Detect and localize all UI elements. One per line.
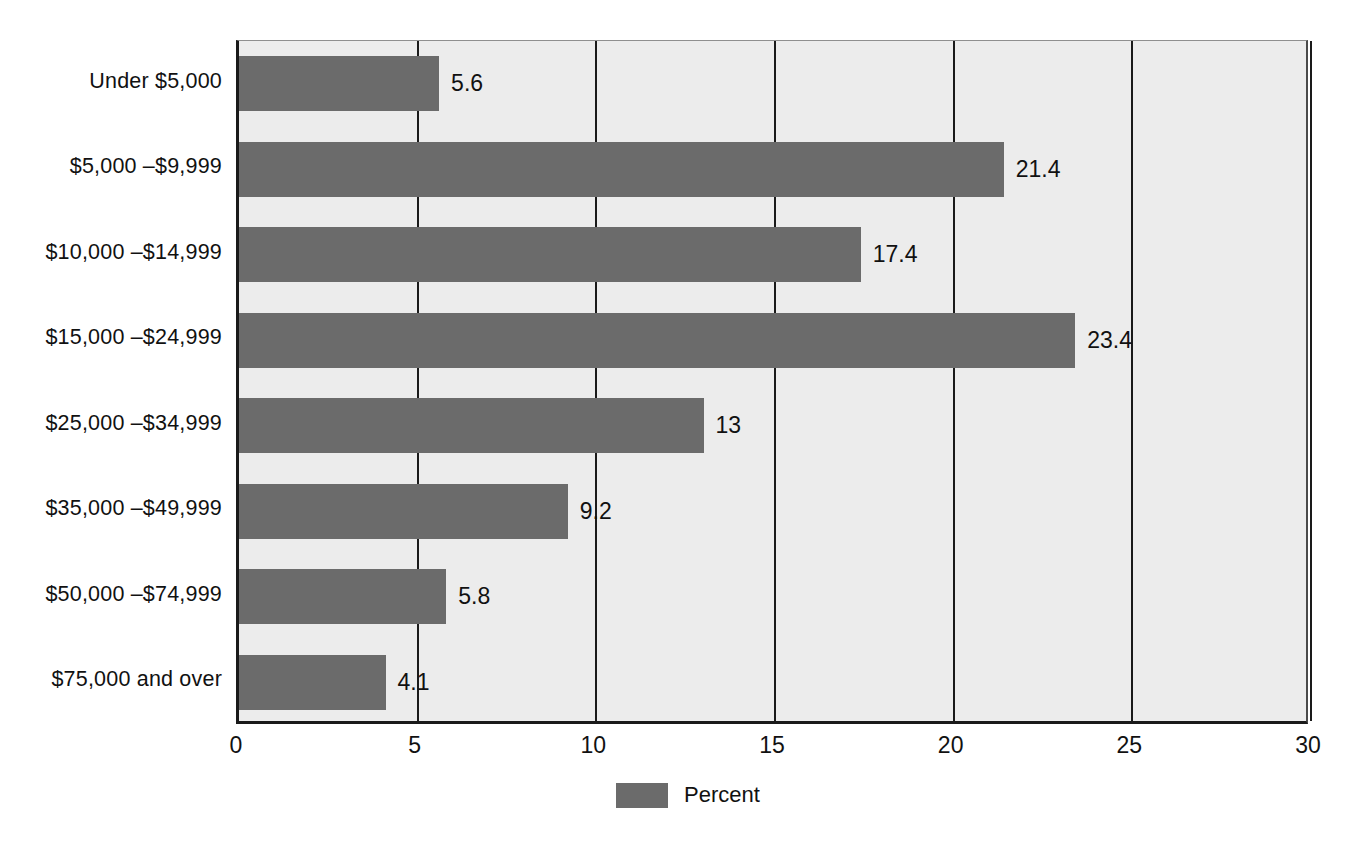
category-label: $50,000 –$74,999 [0, 582, 222, 607]
bar-value-label: 23.4 [1087, 313, 1132, 368]
bar-value-label: 5.6 [451, 56, 483, 111]
legend-label-percent: Percent [684, 782, 760, 808]
bar-value-label: 5.8 [458, 569, 490, 624]
x-tick-label: 25 [1117, 732, 1143, 759]
category-label: $5,000 –$9,999 [0, 154, 222, 179]
plot-inner: 5.621.417.423.4139.25.84.1 [239, 41, 1306, 721]
legend-entry: Percent [616, 782, 760, 808]
legend-swatch-percent [616, 783, 668, 808]
x-tick-label: 30 [1295, 732, 1321, 759]
x-axis: 051015202530 [236, 724, 1308, 770]
plot-area: 5.621.417.423.4139.25.84.1 [236, 40, 1308, 724]
bar [239, 227, 861, 282]
category-label: $35,000 –$49,999 [0, 496, 222, 521]
chart-legend: Percent [0, 782, 1352, 808]
bar [239, 484, 568, 539]
bar [239, 569, 446, 624]
gridline [1131, 41, 1133, 721]
category-label: $75,000 and over [0, 667, 222, 692]
bar [239, 56, 439, 111]
bar [239, 398, 704, 453]
bar [239, 142, 1004, 197]
bar-value-label: 9.2 [580, 484, 612, 539]
bar-value-label: 4.1 [398, 655, 430, 710]
x-tick-label: 5 [408, 732, 421, 759]
bar [239, 655, 386, 710]
x-tick-label: 15 [759, 732, 785, 759]
bar-value-label: 13 [716, 398, 742, 453]
x-tick-label: 0 [230, 732, 243, 759]
category-label: $15,000 –$24,999 [0, 325, 222, 350]
bar [239, 313, 1075, 368]
category-label: $25,000 –$34,999 [0, 411, 222, 436]
bar-value-label: 17.4 [873, 227, 918, 282]
gridline [1310, 41, 1312, 721]
x-tick-label: 20 [938, 732, 964, 759]
category-axis: Under $5,000$5,000 –$9,999$10,000 –$14,9… [0, 40, 222, 724]
x-tick-label: 10 [581, 732, 607, 759]
bar-value-label: 21.4 [1016, 142, 1061, 197]
bar-chart: Under $5,000$5,000 –$9,999$10,000 –$14,9… [0, 0, 1352, 850]
category-label: $10,000 –$14,999 [0, 240, 222, 265]
category-label: Under $5,000 [0, 69, 222, 94]
